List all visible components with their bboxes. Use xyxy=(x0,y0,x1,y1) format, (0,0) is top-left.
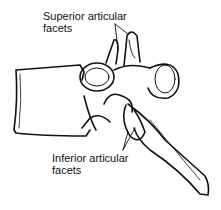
inferior-label-line2: facets xyxy=(52,164,128,176)
superior-label-line2: facets xyxy=(43,22,127,34)
inferior-articular-facets-label: Inferior articular facets xyxy=(52,152,128,176)
inferior-label-line1: Inferior articular xyxy=(52,152,128,164)
vertebra-diagram: Superior articular facets Inferior artic… xyxy=(0,0,221,210)
superior-label-line1: Superior articular xyxy=(43,10,127,22)
superior-articular-facets-label: Superior articular facets xyxy=(43,10,127,34)
